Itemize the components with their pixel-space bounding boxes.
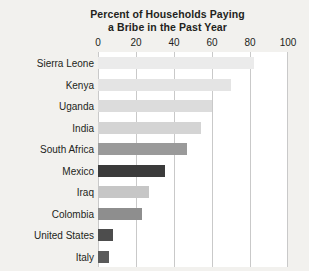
chart-title-line-1: Percent of Households Paying [0,8,309,21]
bar [98,229,113,241]
category-label: Colombia [0,209,94,221]
category-label: Sierra Leone [0,58,94,70]
bar [98,79,231,91]
x-tick-label: 60 [206,37,217,48]
category-label: Kenya [0,80,94,92]
bar-chart: Percent of Households Paying a Bribe in … [0,0,309,271]
gridline [250,52,251,267]
bar [98,122,201,134]
bar [98,208,142,220]
bar [98,57,254,69]
bar [98,100,212,112]
plot-area [98,52,288,267]
bar [98,251,109,263]
x-axis-tick-labels: 020406080100 [0,37,309,51]
x-tick-label: 100 [280,37,297,48]
chart-title: Percent of Households Paying a Bribe in … [0,8,309,34]
x-tick-label: 40 [168,37,179,48]
category-label: Uganda [0,101,94,113]
bar [98,186,149,198]
x-tick-label: 20 [130,37,141,48]
y-axis-category-labels: Sierra LeoneKenyaUgandaIndiaSouth Africa… [0,52,94,267]
category-label: Italy [0,252,94,264]
x-tick-label: 80 [244,37,255,48]
bar [98,143,187,155]
category-label: Iraq [0,187,94,199]
bar [98,165,165,177]
gridline [287,52,288,267]
category-label: South Africa [0,144,94,156]
chart-title-line-2: a Bribe in the Past Year [0,21,309,34]
category-label: Mexico [0,166,94,178]
category-label: India [0,123,94,135]
x-tick-label: 0 [95,37,101,48]
category-label: United States [0,230,94,242]
